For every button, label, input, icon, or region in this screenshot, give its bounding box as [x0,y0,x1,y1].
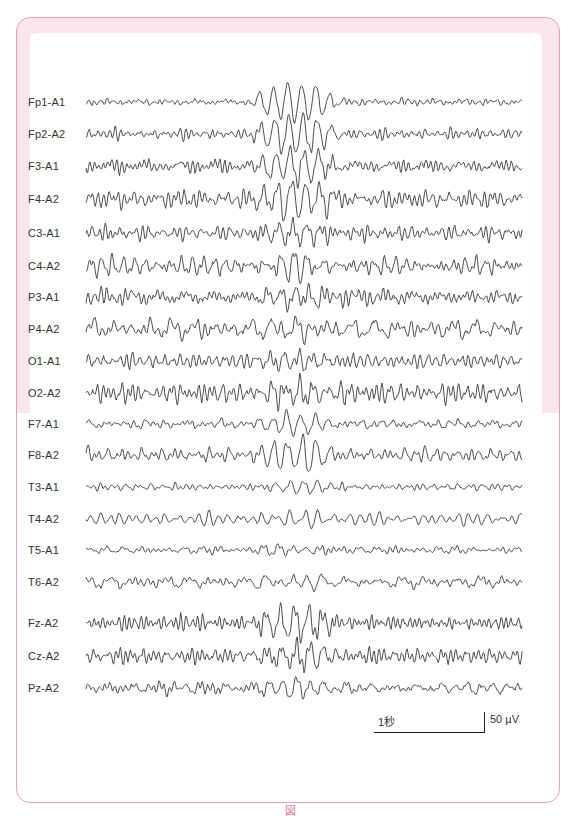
channel-label-t4-a2: T4-A2 [28,513,59,525]
channel-label-f4-a2: F4-A2 [28,193,59,205]
eeg-trace-f8-a2 [86,434,522,471]
eeg-trace-f7-a1 [86,409,522,436]
channel-label-o2-a2: O2-A2 [28,387,61,399]
eeg-trace-f3-a1 [86,145,522,188]
channel-label-p4-a2: P4-A2 [28,323,60,335]
channel-label-o1-a1: O1-A1 [28,355,61,367]
channel-label-c3-a1: C3-A1 [28,227,60,239]
scale-bar: 1秒 50 µV [374,712,486,734]
eeg-trace-cz-a2 [86,637,522,673]
eeg-trace-t6-a2 [86,574,522,592]
channel-label-f7-a1: F7-A1 [28,418,59,430]
eeg-trace-fz-a2 [86,603,522,644]
scale-amplitude-bar [484,712,485,733]
channel-label-f8-a2: F8-A2 [28,449,59,461]
channel-label-fp1-a1: Fp1-A1 [28,96,65,108]
eeg-trace-t4-a2 [86,510,522,530]
scale-time-bar [374,732,484,733]
figure-caption: 図 [0,802,580,818]
eeg-trace-f4-a2 [86,181,522,221]
channel-label-cz-a2: Cz-A2 [28,650,60,662]
eeg-trace-o1-a1 [86,348,522,372]
eeg-trace-c4-a2 [86,253,522,283]
channel-label-pz-a2: Pz-A2 [28,682,59,694]
eeg-trace-pz-a2 [86,677,522,700]
eeg-trace-t3-a1 [86,480,522,494]
eeg-trace-fp2-a2 [86,113,522,155]
channel-label-fp2-a2: Fp2-A2 [28,128,65,140]
eeg-trace-p3-a1 [86,284,522,313]
channel-label-t3-a1: T3-A1 [28,481,59,493]
channel-label-c4-a2: C4-A2 [28,260,60,272]
eeg-trace-o2-a2 [86,373,522,411]
eeg-trace-p4-a2 [86,316,522,345]
eeg-trace-c3-a1 [86,217,522,247]
channel-label-t5-a1: T5-A1 [28,544,59,556]
scale-time-label: 1秒 [378,713,395,729]
channel-label-f3-a1: F3-A1 [28,160,59,172]
channel-label-t6-a2: T6-A2 [28,576,59,588]
channel-label-p3-a1: P3-A1 [28,291,60,303]
channel-label-fz-a2: Fz-A2 [28,617,58,629]
eeg-trace-t5-a1 [86,544,522,557]
scale-amplitude-label: 50 µV [490,713,519,725]
